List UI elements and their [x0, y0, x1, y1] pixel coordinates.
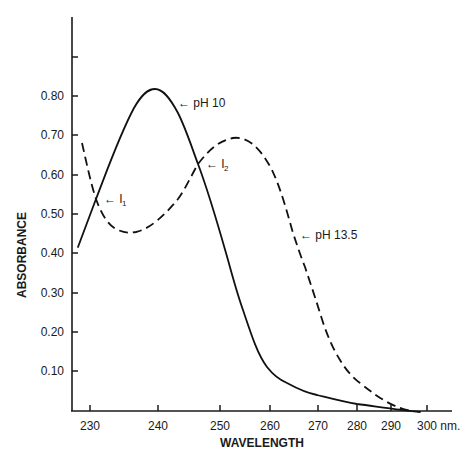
y-tick-labels: 0.10 0.20 0.30 0.40 0.50 0.60 0.70 0.80 — [41, 89, 65, 378]
x-tick-labels: 230 240 250 260 270 280 290 300 nm. — [80, 419, 460, 433]
y-tick-label: 0.40 — [41, 246, 65, 260]
series-ph135-line — [82, 138, 413, 411]
x-axis-title: WAVELENGTH — [220, 436, 304, 450]
annotation-i2-label: ← I — [206, 157, 225, 171]
annotation-i1-subscript: 1 — [122, 199, 127, 208]
x-tick-label: 250 — [210, 419, 230, 433]
y-tick-label: 0.50 — [41, 207, 65, 221]
x-tick-label: 240 — [148, 419, 168, 433]
y-axis-title: ABSORBANCE — [15, 212, 29, 298]
x-tick-label: 260 — [260, 419, 280, 433]
y-tick-label: 0.20 — [41, 325, 65, 339]
y-tick-label: 0.80 — [41, 89, 65, 103]
absorbance-chart: 0.10 0.20 0.30 0.40 0.50 0.60 0.70 0.80 … — [0, 0, 475, 462]
y-tick-label: 0.70 — [41, 128, 65, 142]
series-ph10-line — [78, 89, 420, 412]
annotation-i2: ← I 2 — [206, 157, 229, 173]
annotation-ph10: ← pH 10 — [178, 96, 226, 110]
annotation-i1-label: ← I — [104, 192, 123, 206]
y-ticks — [72, 57, 78, 371]
y-tick-label: 0.10 — [41, 364, 65, 378]
x-tick-label: 230 — [80, 419, 100, 433]
annotation-i1: ← I 1 — [104, 192, 127, 208]
x-tick-label: 290 — [381, 419, 401, 433]
y-tick-label: 0.30 — [41, 286, 65, 300]
annotation-i2-subscript: 2 — [224, 164, 229, 173]
annotation-ph135: ← pH 13.5 — [300, 228, 358, 242]
y-tick-label: 0.60 — [41, 168, 65, 182]
x-tick-label: 280 — [347, 419, 367, 433]
x-tick-label: 270 — [308, 419, 328, 433]
x-tick-label: 300 nm. — [417, 419, 460, 433]
